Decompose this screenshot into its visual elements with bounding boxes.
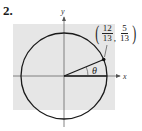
point-coordinate-label: ( 12 13 , 5 13 ) <box>94 23 138 43</box>
y-numerator: 5 <box>121 24 128 34</box>
y-axis-label: y <box>60 7 65 16</box>
x-coordinate-fraction: 12 13 <box>102 24 113 43</box>
right-paren: ) <box>132 23 136 43</box>
x-numerator: 12 <box>102 24 113 34</box>
x-denominator: 13 <box>102 34 113 43</box>
terminal-point <box>102 58 106 62</box>
x-axis-label: x <box>122 72 127 81</box>
y-denominator: 13 <box>119 34 130 43</box>
y-coordinate-fraction: 5 13 <box>119 24 130 43</box>
unit-circle-figure: y x θ <box>0 0 142 131</box>
left-paren: ( <box>95 23 99 43</box>
coordinate-comma: , <box>114 33 116 43</box>
theta-label: θ <box>92 65 97 76</box>
